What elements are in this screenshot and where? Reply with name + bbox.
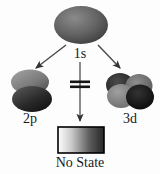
orbital-label-2p: 2p bbox=[0, 112, 60, 126]
orbital-transition-diagram: 1s 2p 3d No State bbox=[0, 0, 160, 174]
orbital-3d bbox=[106, 73, 154, 110]
no-state-gradient-bar bbox=[58, 127, 104, 153]
no-state-label: No State bbox=[0, 156, 160, 170]
diagram-canvas bbox=[0, 0, 160, 174]
orbital-label-1s: 1s bbox=[0, 47, 160, 61]
orbital-1s bbox=[54, 6, 108, 44]
orbital-2p bbox=[11, 70, 52, 113]
orbital-label-3d: 3d bbox=[100, 112, 160, 126]
arrow-to-no-state-blocked bbox=[70, 62, 90, 121]
